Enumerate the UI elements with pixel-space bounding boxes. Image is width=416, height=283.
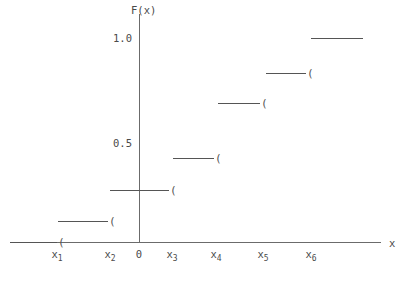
open-interval-marker-x1-to-x2: ( [109, 216, 116, 227]
x-tick-subscript: 2 [111, 254, 116, 263]
cdf-step-chart: F(x) x 0 1.00.5 x1x2x3x4x5x6 (((((( [0, 0, 416, 283]
step-segment-x3-to-x4 [173, 158, 214, 159]
open-interval-marker-x2-to-x3: ( [170, 185, 177, 196]
x-tick-label-x1: x1 [51, 249, 62, 261]
open-interval-marker-x3-to-x4: ( [215, 153, 222, 164]
open-interval-marker-below-x1: ( [58, 237, 65, 248]
y-tick-label: 1.0 [113, 33, 132, 44]
step-segment-above-x6 [311, 38, 363, 39]
step-segment-x5-to-x6 [266, 73, 306, 74]
x-axis-line [10, 242, 381, 243]
step-segment-x2-to-x3 [110, 190, 169, 191]
step-segment-x1-to-x2 [58, 221, 108, 222]
x-tick-subscript: 6 [312, 254, 317, 263]
x-tick-subscript: 4 [217, 254, 222, 263]
y-axis-title: F(x) [131, 5, 156, 16]
y-tick-label: 0.5 [113, 138, 132, 149]
x-tick-subscript: 3 [173, 254, 178, 263]
step-segment-below-x1 [10, 242, 57, 243]
x-tick-label-x5: x5 [257, 249, 268, 261]
origin-tick-label: 0 [136, 249, 142, 260]
step-segment-x4-to-x5 [218, 103, 260, 104]
x-tick-label-x2: x2 [104, 249, 115, 261]
x-tick-subscript: 5 [264, 254, 269, 263]
open-interval-marker-x4-to-x5: ( [261, 98, 268, 109]
x-tick-label-x6: x6 [305, 249, 316, 261]
y-axis-line [139, 14, 140, 242]
x-tick-label-x3: x3 [166, 249, 177, 261]
x-tick-subscript: 1 [58, 254, 63, 263]
x-axis-title: x [389, 238, 395, 249]
open-interval-marker-x5-to-x6: ( [307, 68, 314, 79]
x-tick-label-x4: x4 [210, 249, 221, 261]
